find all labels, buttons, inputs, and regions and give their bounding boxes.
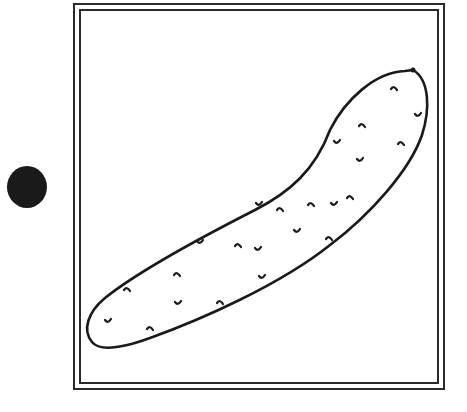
cucumber-bump — [255, 247, 261, 250]
cucumber-bump — [326, 237, 332, 240]
cucumber-bump — [256, 202, 262, 205]
cucumber-bump — [175, 301, 181, 304]
cucumber-bump — [331, 202, 337, 205]
cucumber-bump — [347, 196, 353, 199]
cucumber-bump — [105, 319, 111, 322]
cucumber-bump — [398, 142, 404, 145]
cucumber-bump — [124, 288, 130, 291]
cucumber-illustration — [0, 0, 467, 412]
cucumber-bump — [217, 301, 223, 304]
cucumber-bump — [357, 158, 363, 161]
cucumber-bump — [147, 327, 153, 330]
cucumber-bump — [197, 240, 203, 243]
cucumber-bump — [174, 273, 180, 276]
cucumber-bump — [235, 244, 241, 247]
cucumber-bump — [277, 208, 283, 211]
cucumber-bump — [415, 113, 421, 116]
cucumber-bump — [294, 229, 300, 232]
cucumber-bump — [359, 124, 365, 127]
cucumber-bump — [308, 203, 314, 206]
cucumber-stem-nub — [411, 68, 416, 73]
cucumber-bump — [259, 275, 265, 278]
cucumber-bump — [334, 140, 340, 143]
cucumber-bump — [391, 87, 397, 90]
cucumber-outline — [87, 70, 427, 348]
cucumber-bumps — [105, 87, 421, 330]
